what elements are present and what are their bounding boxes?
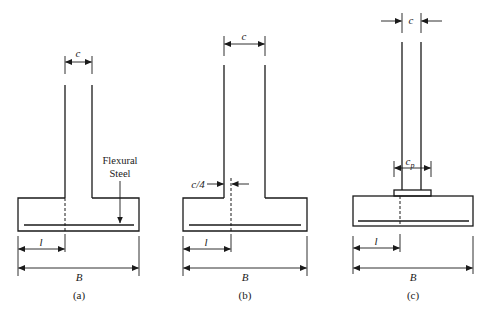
footing-a — [18, 198, 139, 231]
panel-a: c Flexural Steel l B (a) — [18, 47, 139, 302]
dim-cp-c: cp — [394, 155, 431, 177]
note-line1: Flexural — [103, 155, 138, 166]
label-b-b: B — [242, 271, 249, 283]
caption-c: (c) — [407, 289, 420, 302]
label-b-a: B — [76, 271, 83, 283]
dim-l-a: l — [18, 234, 65, 276]
dim-c-a: c — [65, 47, 92, 74]
label-c4-b: c/4 — [191, 178, 205, 190]
panel-b: c c/4 l B (b) — [183, 30, 307, 302]
dim-c4-b: c/4 — [191, 178, 249, 190]
flexural-steel-note: Flexural Steel — [103, 155, 138, 223]
label-c-b: c — [242, 30, 247, 42]
column-b — [224, 65, 265, 198]
dim-b-c: B — [354, 236, 474, 283]
dim-c-c: c — [381, 13, 442, 33]
note-line2: Steel — [110, 168, 131, 179]
dim-b-b: B — [184, 236, 308, 283]
caption-b: (b) — [239, 289, 252, 302]
column-a — [65, 85, 92, 198]
footing-diagram: c Flexural Steel l B (a) — [0, 0, 485, 311]
label-l-a: l — [39, 236, 42, 248]
label-c-c: c — [409, 14, 414, 26]
label-c-a: c — [76, 47, 81, 59]
dim-b-a: B — [19, 236, 140, 283]
label-l-c: l — [374, 235, 377, 247]
footing-b — [183, 198, 307, 231]
label-b-c: B — [410, 271, 417, 283]
panel-c: c cp l B (c) — [353, 13, 473, 302]
label-l-b: l — [204, 236, 207, 248]
caption-a: (a) — [73, 289, 86, 302]
dim-l-b: l — [183, 234, 231, 276]
dim-c-b: c — [224, 30, 265, 56]
base-plate-c — [394, 190, 431, 196]
